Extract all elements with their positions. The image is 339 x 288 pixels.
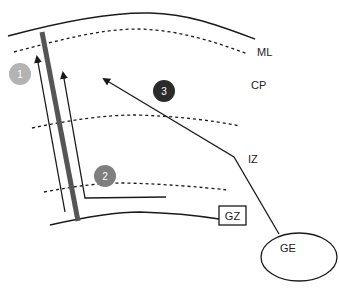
cortical-plate-boundary <box>32 115 240 128</box>
gz-box: GZ <box>219 206 246 225</box>
cp-label: CP <box>251 79 266 91</box>
marker-3-number: 3 <box>161 86 167 97</box>
iz-label: IZ <box>248 153 258 165</box>
marker-2: 2 <box>94 165 116 187</box>
marker-1: 1 <box>9 63 31 85</box>
marker-3: 3 <box>153 80 175 102</box>
marker-2-number: 2 <box>102 171 108 182</box>
marker-1-number: 1 <box>17 69 23 80</box>
ml-label: ML <box>257 46 272 58</box>
marginal-layer-boundary <box>14 29 248 54</box>
cortical-migration-diagram: GZ GE ML CP IZ 1 2 3 <box>0 0 339 288</box>
ge-ellipse: GE <box>261 233 337 281</box>
ge-label: GE <box>280 242 296 254</box>
gz-label: GZ <box>225 210 241 222</box>
